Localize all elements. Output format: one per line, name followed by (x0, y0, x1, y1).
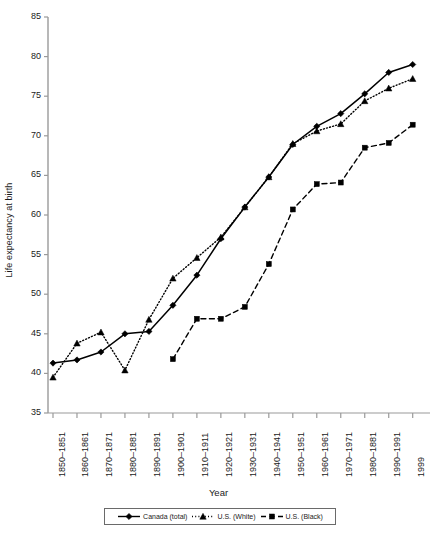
data-point-triangle (194, 255, 200, 261)
y-tick-label: 35 (19, 408, 41, 417)
x-tick-label: 1870–1871 (105, 432, 114, 477)
legend-label: Canada (total) (143, 513, 187, 520)
x-tick-label: 1900–1901 (177, 432, 186, 477)
x-tick-label: 1940–1941 (273, 432, 282, 477)
x-tick-label: 1999 (417, 457, 426, 477)
legend-label: U.S. (Black) (286, 513, 323, 520)
series-1 (50, 61, 416, 366)
x-tick-label: 1850–1851 (58, 432, 67, 477)
data-point-triangle (74, 340, 80, 346)
x-tick-label: 1890–1891 (153, 432, 162, 477)
x-tick-label: 1930–1931 (249, 432, 258, 477)
series-line (53, 79, 413, 378)
y-axis-label: Life expectancy at birth (2, 150, 16, 310)
data-point-square (362, 145, 367, 150)
x-tick-label: 1990–1991 (393, 432, 402, 477)
x-tick-label: 1960–1961 (321, 432, 330, 477)
x-tick-label: 1950–1951 (297, 432, 306, 477)
series-line (53, 65, 413, 364)
chart-legend: Canada (total)U.S. (White)U.S. (Black) (104, 508, 336, 525)
series-layer (50, 61, 416, 380)
data-point-square (218, 316, 223, 321)
x-axis-label: Year (0, 487, 437, 498)
y-tick-label: 75 (19, 91, 41, 100)
series-2 (50, 76, 416, 381)
legend-marker-square-icon (260, 512, 284, 521)
data-point-square (242, 304, 247, 309)
data-point-square (269, 514, 274, 519)
data-point-square (290, 207, 295, 212)
data-point-triangle (98, 329, 104, 335)
y-tick-label: 55 (19, 250, 41, 259)
legend-entry: Canada (total) (115, 512, 189, 521)
data-point-diamond (50, 360, 56, 366)
data-point-triangle (362, 98, 368, 104)
y-tick-label: 70 (19, 131, 41, 140)
series-3 (170, 122, 415, 361)
legend-entry: U.S. (Black) (258, 512, 325, 521)
y-tick-label: 45 (19, 329, 41, 338)
x-tick-label: 1860–1861 (81, 432, 90, 477)
x-tick-label: 1880–1881 (129, 432, 138, 477)
data-point-triangle (409, 76, 415, 82)
data-point-square (338, 180, 343, 185)
y-tick-label: 80 (19, 52, 41, 61)
legend-label: U.S. (White) (217, 513, 255, 520)
data-point-diamond (126, 513, 132, 519)
data-point-square (266, 262, 271, 267)
data-point-square (386, 140, 391, 145)
data-point-square (194, 316, 199, 321)
data-point-diamond (74, 357, 80, 363)
y-tick-label: 50 (19, 289, 41, 298)
data-point-triangle (338, 121, 344, 127)
data-point-diamond (410, 61, 416, 67)
y-tick-label: 40 (19, 368, 41, 377)
chart-figure: Life expectancy at birth 354045505560657… (0, 0, 437, 536)
data-point-triangle (170, 275, 176, 281)
data-point-square (170, 357, 175, 362)
x-tick-label: 1980–1881 (369, 432, 378, 477)
y-tick-label: 65 (19, 170, 41, 179)
x-tick-label: 1920–1921 (225, 432, 234, 477)
legend-marker-diamond-icon (117, 512, 141, 521)
data-point-square (410, 122, 415, 127)
y-tick-label: 85 (19, 12, 41, 21)
x-tick-label: 1970–1971 (345, 432, 354, 477)
legend-entry: U.S. (White) (189, 512, 257, 521)
data-point-triangle (146, 316, 152, 322)
data-point-square (314, 182, 319, 187)
series-line (173, 125, 413, 359)
legend-marker-triangle-icon (191, 512, 215, 521)
x-tick-label: 1910–1911 (201, 433, 210, 477)
y-tick-label: 60 (19, 210, 41, 219)
